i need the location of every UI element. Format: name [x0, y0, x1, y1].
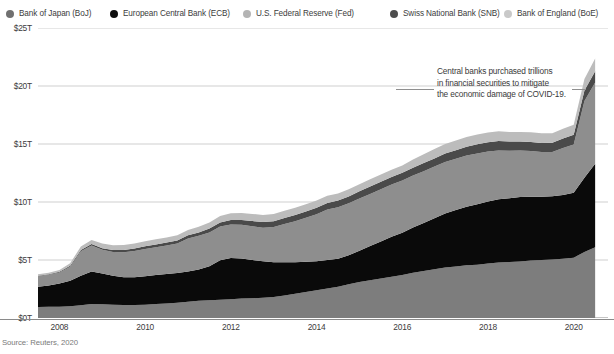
x-axis-tick-label: 2018: [479, 322, 497, 332]
legend-label-boj: Bank of Japan (BoJ): [19, 9, 91, 19]
legend-item-fed[interactable]: U.S. Federal Reserve (Fed): [243, 9, 354, 19]
chart-legend: Bank of Japan (BoJ) European Central Ban…: [0, 4, 614, 24]
legend-swatch-ecb: [110, 10, 118, 18]
x-axis-tick-label: 2016: [393, 322, 411, 332]
annotation-line-3: the economic damage of COVID-19.: [437, 89, 597, 101]
annotation-line-1: Central banks purchased trillions: [437, 66, 597, 78]
legend-item-ecb[interactable]: European Central Bank (ECB): [110, 9, 230, 19]
legend-item-snb[interactable]: Swiss National Bank (SNB): [390, 9, 500, 19]
x-axis: 2008201020122014201620182020: [38, 320, 608, 336]
annotation-line-2: in financial securities to mitigate: [437, 78, 597, 90]
y-axis-tick-label: $10T: [14, 197, 32, 207]
source-caption: Source: Reuters, 2020: [2, 338, 78, 347]
legend-swatch-boj: [6, 10, 14, 18]
legend-label-fed: U.S. Federal Reserve (Fed): [256, 9, 354, 19]
legend-label-ecb: European Central Bank (ECB): [123, 9, 230, 19]
x-axis-tick-label: 2012: [222, 322, 240, 332]
x-axis-tick-label: 2008: [51, 322, 69, 332]
legend-label-snb: Swiss National Bank (SNB): [403, 9, 500, 19]
chart-annotation: Central banks purchased trillions in fin…: [437, 66, 597, 101]
chart-root: Bank of Japan (BoJ) European Central Ban…: [0, 0, 614, 354]
legend-item-boe[interactable]: Bank of England (BoE): [504, 9, 598, 19]
legend-swatch-snb: [390, 10, 398, 18]
y-axis-tick-label: $0T: [18, 313, 32, 323]
y-axis: $0T$5T$10T$15T$20T$25T: [0, 28, 38, 318]
legend-item-boj[interactable]: Bank of Japan (BoJ): [6, 9, 91, 19]
legend-label-boe: Bank of England (BoE): [517, 9, 598, 19]
y-axis-tick-label: $25T: [14, 23, 32, 33]
x-axis-tick-label: 2014: [308, 322, 326, 332]
annotation-leader-line-left: [396, 89, 434, 90]
legend-swatch-fed: [243, 10, 251, 18]
x-axis-tick-label: 2020: [565, 322, 583, 332]
x-axis-tick-label: 2010: [136, 322, 154, 332]
legend-swatch-boe: [504, 10, 512, 18]
y-axis-tick-label: $20T: [14, 81, 32, 91]
y-axis-tick-label: $15T: [14, 139, 32, 149]
y-axis-tick-label: $5T: [18, 255, 32, 265]
